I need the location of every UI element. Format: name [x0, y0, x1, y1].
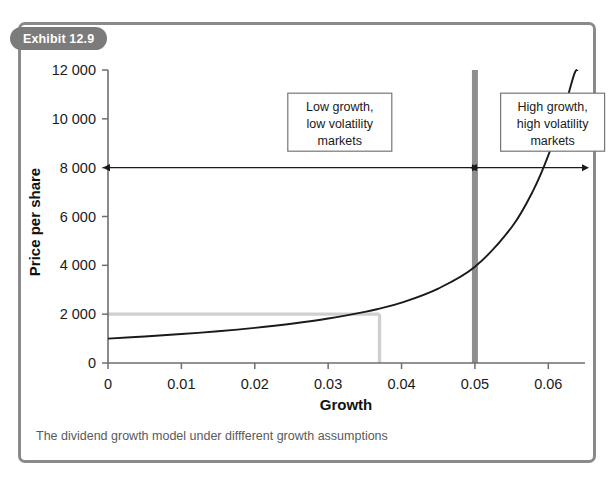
exhibit-badge-label: Exhibit 12.9 [23, 32, 94, 46]
exhibit-frame [18, 22, 596, 463]
exhibit-badge: Exhibit 12.9 [10, 27, 107, 50]
